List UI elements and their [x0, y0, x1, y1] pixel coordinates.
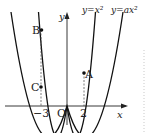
y-axis-arrow-icon [65, 12, 70, 19]
x-axis-label: x [117, 109, 123, 120]
point-B-label: B [32, 24, 40, 37]
curve-label-y-ax-squared: y=ax² [110, 5, 138, 15]
tick-label-minus3: −3 [33, 107, 49, 120]
curve-label-y-x-squared: y=x² [81, 5, 104, 15]
parabola-diagram: B C A O −3 2 x y y=x² y=ax² [0, 0, 147, 133]
tick-label-2: 2 [80, 107, 87, 120]
origin-label: O [57, 107, 66, 120]
y-axis-label: y [58, 11, 65, 22]
point-C-label: C [31, 81, 39, 94]
point-B [40, 28, 44, 32]
point-C [39, 85, 43, 89]
x-axis-arrow-icon [121, 104, 128, 109]
point-A-label: A [84, 68, 94, 81]
